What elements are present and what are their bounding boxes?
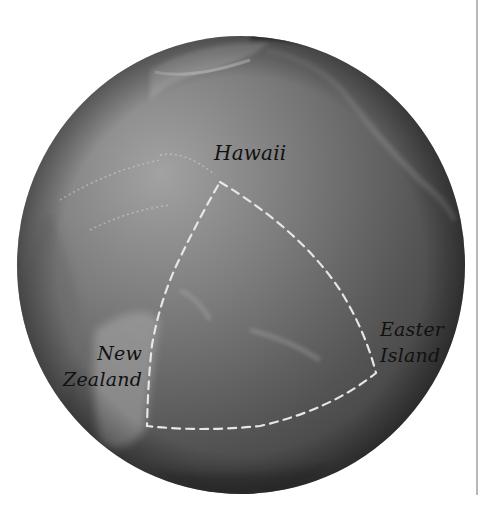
label-easter-line-1: Easter [380,316,436,342]
label-easter-line-2: Island [380,342,436,368]
label-nz-line-1: New [60,340,142,366]
globe-map [0,0,483,524]
label-new-zealand: New Zealand [60,340,142,392]
label-hawaii: Hawaii [214,140,286,166]
globe-limb-shading [17,36,465,494]
label-hawaii-text: Hawaii [214,140,286,166]
label-easter-island: Easter Island [380,316,436,368]
label-nz-line-2: Zealand [60,366,142,392]
map-figure: Hawaii Easter Island New Zealand [0,0,483,524]
side-rule-divider [476,0,478,495]
